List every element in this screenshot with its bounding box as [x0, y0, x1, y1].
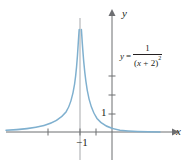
x-tick-label-neg1: −1	[76, 137, 88, 148]
equation-numerator: 1	[142, 44, 153, 53]
y-axis-arrowhead	[109, 9, 116, 16]
curve-left-branch	[6, 30, 79, 131]
equation-equals-sign: =	[126, 52, 131, 61]
equation-lhs: y	[120, 52, 124, 61]
y-tick-label-one: 1	[101, 107, 107, 118]
equation-fraction: 1 (x + 2)2	[133, 44, 162, 68]
equation-denominator-exponent: 2	[158, 55, 161, 61]
equation-denominator-plus-two: + 2	[141, 58, 155, 68]
equation-denominator: (x + 2)2	[133, 56, 162, 68]
axis-label-x: x	[176, 126, 181, 137]
function-graph-figure: y x −1 1 y = 1 (x + 2)2	[0, 0, 189, 167]
graph-canvas	[0, 0, 189, 167]
axis-label-y: y	[122, 8, 127, 19]
equation-label: y = 1 (x + 2)2	[120, 44, 162, 68]
